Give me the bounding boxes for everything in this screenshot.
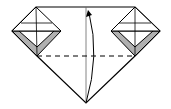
origami-diagram (0, 0, 171, 109)
